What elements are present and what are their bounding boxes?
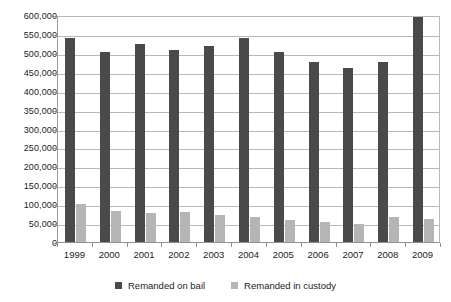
y-axis-tick-label: 300,000	[5, 126, 57, 135]
x-axis-tick-mark	[440, 243, 441, 247]
bar-group	[302, 17, 337, 242]
legend-label: Remanded on bail	[128, 280, 205, 291]
bar-bail-2009	[413, 17, 423, 242]
bar-bail-1999	[65, 38, 75, 242]
bar-custody-2001	[146, 213, 156, 242]
plot-area	[57, 16, 440, 243]
x-axis-tick-mark	[336, 243, 337, 247]
bar-group	[58, 17, 93, 242]
y-axis-tick-label: 600,000	[5, 12, 57, 21]
y-axis: 050,000100,000150,000200,000250,000300,0…	[0, 16, 57, 243]
bar-bail-2005	[274, 52, 284, 242]
x-axis-tick-mark	[266, 243, 267, 247]
x-axis-tick-mark	[127, 243, 128, 247]
bar-bail-2007	[343, 68, 353, 242]
x-axis-tick-mark	[301, 243, 302, 247]
bar-custody-2007	[354, 224, 364, 242]
bar-custody-2002	[180, 212, 190, 242]
y-axis-tick-label: 50,000	[5, 220, 57, 229]
y-axis-tick-label: 400,000	[5, 88, 57, 97]
bar-group	[371, 17, 406, 242]
x-axis: 1999200020012002200320042005200620072008…	[57, 243, 440, 265]
x-axis-tick-mark	[196, 243, 197, 247]
bar-group	[162, 17, 197, 242]
bar-custody-2005	[285, 220, 295, 242]
bar-group	[406, 17, 441, 242]
y-axis-tick-label: 450,000	[5, 69, 57, 78]
legend-entry-custody[interactable]: Remanded in custody	[231, 280, 336, 291]
chart-legend: Remanded on bailRemanded in custody	[0, 280, 451, 291]
legend-entry-bail[interactable]: Remanded on bail	[115, 280, 205, 291]
bar-bail-2003	[204, 46, 214, 242]
bar-group	[93, 17, 128, 242]
bar-custody-2009	[424, 219, 434, 242]
x-axis-tick-mark	[92, 243, 93, 247]
bar-custody-2004	[250, 217, 260, 242]
legend-swatch-icon	[231, 282, 238, 289]
bar-bail-2001	[135, 44, 145, 242]
bar-group	[128, 17, 163, 242]
y-axis-tick-label: 100,000	[5, 201, 57, 210]
bar-group	[197, 17, 232, 242]
y-axis-tick-label: 250,000	[5, 144, 57, 153]
x-axis-tick-mark	[405, 243, 406, 247]
x-axis-tick-mark	[231, 243, 232, 247]
bar-custody-2000	[111, 211, 121, 242]
x-axis-tick-mark	[370, 243, 371, 247]
bar-group	[337, 17, 372, 242]
bar-bail-2004	[239, 38, 249, 242]
chart-page: 050,000100,000150,000200,000250,000300,0…	[0, 0, 451, 302]
y-axis-tick-label: 150,000	[5, 182, 57, 191]
x-axis-tick-mark	[57, 243, 58, 247]
legend-swatch-icon	[115, 282, 122, 289]
y-axis-tick-label: 350,000	[5, 107, 57, 116]
y-axis-tick-label: 500,000	[5, 50, 57, 59]
bar-custody-2006	[320, 222, 330, 242]
bar-custody-2003	[215, 215, 225, 242]
bar-bail-2002	[169, 50, 179, 242]
bar-bail-2008	[378, 62, 388, 242]
bar-bail-2006	[309, 62, 319, 242]
bar-group	[232, 17, 267, 242]
x-axis-tick-mark	[161, 243, 162, 247]
y-axis-tick-label: 550,000	[5, 31, 57, 40]
bar-custody-2008	[389, 217, 399, 242]
bar-bail-2000	[100, 52, 110, 242]
bar-custody-1999	[76, 204, 86, 242]
x-axis-tick-label-2009: 2009	[403, 249, 443, 260]
y-axis-tick-label: 0	[5, 239, 57, 248]
y-axis-tick-label: 200,000	[5, 163, 57, 172]
bar-group	[267, 17, 302, 242]
legend-label: Remanded in custody	[244, 280, 336, 291]
